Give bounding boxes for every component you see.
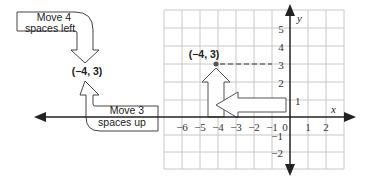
y-axis (285, 4, 295, 176)
svg-text:−2: −2 (248, 121, 260, 133)
svg-text:−1: −1 (271, 130, 283, 142)
x-tick-labels: −6 −5 −4 −3 −2 −1 0 1 2 (176, 121, 329, 133)
x-axis-label: x (330, 103, 336, 115)
coordinate-grid (164, 10, 344, 169)
point-label: (−4, 3) (189, 48, 220, 60)
svg-text:−2: −2 (271, 147, 283, 159)
svg-text:4: 4 (278, 41, 284, 53)
svg-text:1: 1 (305, 121, 311, 133)
callout-up-line2: spaces up (98, 116, 146, 128)
point-marker (214, 62, 219, 67)
callout-move-up: Move 3 spaces up (80, 81, 158, 131)
y-axis-label: y (296, 12, 302, 24)
svg-text:1: 1 (295, 95, 301, 107)
svg-text:5: 5 (278, 23, 284, 35)
svg-text:2: 2 (278, 77, 284, 89)
diagram-canvas: Move 4 spaces left (−4, 3) Move 3 spaces… (0, 0, 366, 181)
callout-left-line2: spaces left (25, 22, 75, 34)
svg-text:−6: −6 (176, 121, 188, 133)
callout-up-line1: Move 3 (110, 104, 145, 116)
left-arrow (216, 92, 286, 118)
y-tick-labels: 1 2 3 4 5 −1 −2 (271, 23, 300, 159)
callout-move-left: Move 4 spaces left (17, 11, 99, 63)
svg-text:−3: −3 (230, 121, 242, 133)
svg-text:−5: −5 (194, 121, 206, 133)
svg-text:3: 3 (278, 59, 284, 71)
svg-text:0: 0 (282, 121, 288, 133)
svg-text:2: 2 (323, 121, 329, 133)
callout-point-label: (−4, 3) (72, 65, 103, 77)
svg-text:−4: −4 (212, 121, 224, 133)
